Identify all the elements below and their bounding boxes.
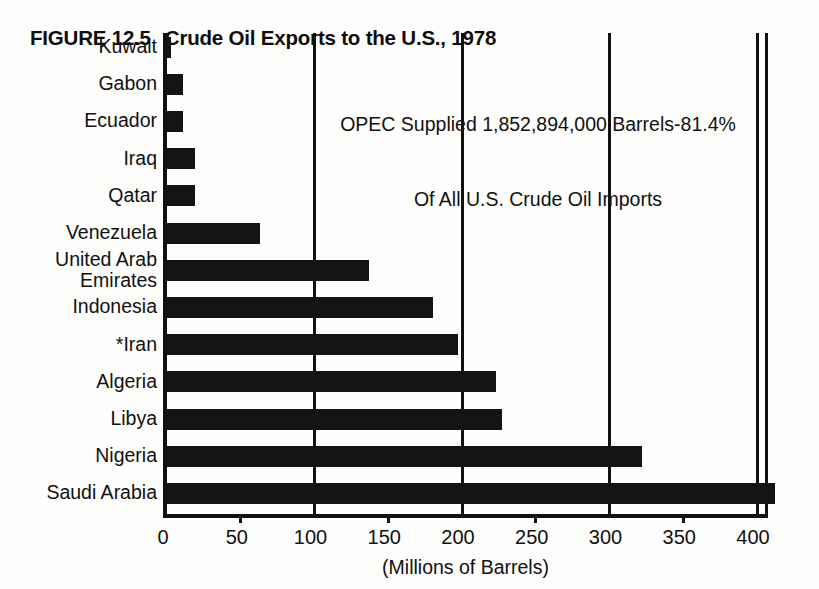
x-axis-tick — [387, 514, 390, 523]
x-axis-tick-label: 50 — [226, 526, 248, 549]
y-axis-label: Venezuela — [0, 222, 157, 243]
y-axis-label: Algeria — [0, 371, 157, 392]
bar — [167, 148, 195, 169]
y-axis-label-line: Ecuador — [0, 110, 157, 131]
x-axis-title: (Millions of Barrels) — [163, 556, 768, 579]
bar — [167, 297, 433, 318]
bar — [167, 446, 642, 467]
y-axis-label: *Iran — [0, 334, 157, 355]
y-axis-label-line: Libya — [0, 408, 157, 429]
gridline — [756, 33, 759, 514]
figure-root: FIGURE 12.5Crude Oil Exports to the U.S.… — [0, 0, 819, 589]
gridline — [461, 33, 464, 514]
x-axis-tick-label: 200 — [441, 526, 474, 549]
bar — [167, 260, 369, 281]
x-axis-tick-label: 300 — [589, 526, 622, 549]
y-axis-label: Iraq — [0, 148, 157, 169]
y-axis-label: Saudi Arabia — [0, 482, 157, 503]
y-axis-label: United ArabEmirates — [0, 249, 157, 291]
y-axis-label-line: Algeria — [0, 371, 157, 392]
x-axis-tick-label: 350 — [663, 526, 696, 549]
bar — [167, 409, 502, 430]
gridline — [608, 33, 611, 514]
x-axis-tick-label: 150 — [368, 526, 401, 549]
bar — [167, 185, 195, 206]
y-axis-label: Libya — [0, 408, 157, 429]
y-axis-label: Gabon — [0, 73, 157, 94]
bar — [167, 111, 183, 132]
y-axis-label: Nigeria — [0, 445, 157, 466]
x-axis-tick — [534, 514, 537, 523]
bar — [167, 334, 458, 355]
bar — [167, 37, 171, 58]
y-axis-label-line: *Iran — [0, 334, 157, 355]
x-axis-tick-label: 0 — [157, 526, 168, 549]
x-axis-tick-label: 100 — [294, 526, 327, 549]
y-axis-label-line: Qatar — [0, 185, 157, 206]
y-axis-label-line: Emirates — [0, 270, 157, 291]
x-axis-tick — [682, 514, 685, 523]
y-axis-label: Ecuador — [0, 110, 157, 131]
y-axis-label-line: Kuwait — [0, 36, 157, 57]
bar — [167, 483, 775, 504]
y-axis-label-line: Indonesia — [0, 296, 157, 317]
x-axis-tick-label: 250 — [515, 526, 548, 549]
y-axis-label-line: Saudi Arabia — [0, 482, 157, 503]
x-axis-tick — [239, 514, 242, 523]
y-axis-label-line: Nigeria — [0, 445, 157, 466]
bar — [167, 223, 260, 244]
y-axis-label: Qatar — [0, 185, 157, 206]
y-axis-label-line: Gabon — [0, 73, 157, 94]
y-axis-label-line: Iraq — [0, 148, 157, 169]
bar — [167, 74, 183, 95]
y-axis-label: Kuwait — [0, 36, 157, 57]
bar — [167, 371, 496, 392]
y-axis-label: Indonesia — [0, 296, 157, 317]
y-axis-label-line: United Arab — [0, 249, 157, 270]
x-axis-tick-label: 400 — [736, 526, 769, 549]
y-axis-label-line: Venezuela — [0, 222, 157, 243]
plot-area — [163, 33, 768, 518]
